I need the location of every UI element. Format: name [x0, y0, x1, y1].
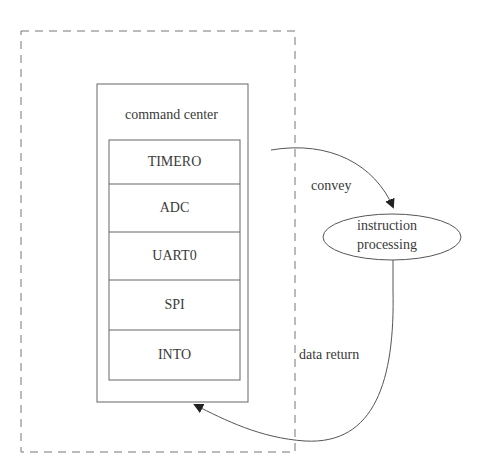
module-int0: INTO: [109, 330, 240, 380]
module-spi: SPI: [109, 280, 240, 330]
data-return-label: data return: [299, 347, 359, 363]
module-uart0: UART0: [109, 232, 240, 280]
module-timer0: TIMERO: [109, 140, 240, 184]
command-center-label: command center: [125, 107, 218, 123]
diagram-canvas: [0, 0, 486, 470]
convey-label: convey: [311, 178, 351, 194]
process-node-line2: processing: [357, 237, 417, 253]
module-adc: ADC: [109, 184, 240, 232]
process-node-line1: instruction: [357, 218, 417, 234]
